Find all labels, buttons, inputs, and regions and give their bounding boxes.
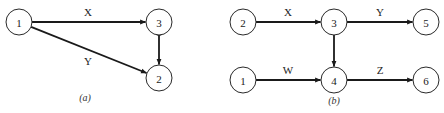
node-b-5: 5 <box>413 9 439 35</box>
node-a-2: 2 <box>146 65 172 91</box>
node-b-3: 3 <box>321 9 347 35</box>
node-b-2: 2 <box>230 9 256 35</box>
edge-label: Z <box>377 64 384 76</box>
node-label: 5 <box>423 17 429 29</box>
node-b-6: 6 <box>413 67 439 93</box>
node-label: 1 <box>240 75 246 87</box>
edge-label: X <box>84 6 92 18</box>
node-label: 2 <box>156 73 162 85</box>
node-label: 6 <box>423 75 429 87</box>
edge-label: X <box>284 6 292 18</box>
node-b-1: 1 <box>230 67 256 93</box>
node-label: 2 <box>240 17 246 29</box>
node-b-4: 4 <box>321 67 347 93</box>
node-label: 3 <box>156 17 162 29</box>
edge-label: W <box>283 64 294 76</box>
diagram-caption: (a) <box>79 92 91 104</box>
network-diagrams: 132235146 XY(a)XYWZ(b) <box>0 0 444 113</box>
node-a-1: 1 <box>6 9 32 35</box>
node-label: 3 <box>331 17 337 29</box>
node-a-3: 3 <box>146 9 172 35</box>
node-label: 1 <box>16 17 22 29</box>
diagram-caption: (b) <box>328 95 340 107</box>
edge-label: Y <box>376 6 384 18</box>
node-label: 4 <box>331 75 337 87</box>
edges-layer <box>31 22 412 80</box>
edge-label: Y <box>84 55 92 67</box>
